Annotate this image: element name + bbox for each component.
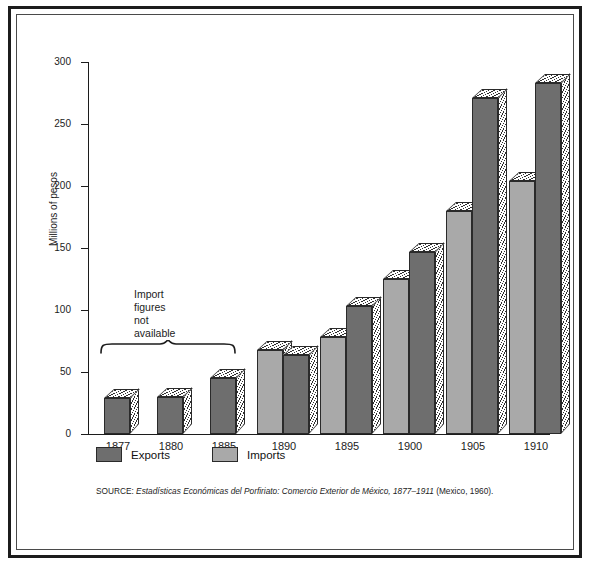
bar-imports-1910[interactable]: [509, 181, 535, 434]
bar-front-face: [283, 355, 309, 434]
y-tick-label-250: 250: [54, 119, 71, 129]
bar-group-1905: 1905: [88, 62, 550, 434]
bar-exports-1877[interactable]: [104, 398, 130, 434]
bar-front-face: [446, 211, 472, 434]
bar-exports-1910[interactable]: [535, 83, 561, 434]
annotation-line-1: Import: [134, 288, 224, 301]
bar-imports-1890[interactable]: [257, 350, 283, 434]
bar-front-face: [472, 98, 498, 434]
annotation-line-4: available: [134, 327, 224, 340]
legend-swatch-exports: [96, 447, 122, 462]
legend: Exports Imports: [96, 447, 317, 462]
bar-exports-1900[interactable]: [409, 252, 435, 434]
plot-area: 300 250 200 150 100 50 0 187718801885189…: [88, 62, 550, 435]
bar-side-face: [561, 73, 570, 434]
bar-side-face: [498, 88, 507, 434]
source-prefix: SOURCE:: [96, 486, 136, 496]
bar-imports-1905[interactable]: [446, 211, 472, 434]
bar-front-face: [257, 350, 283, 434]
y-tick-50: 50: [81, 372, 89, 373]
figure-container: Millions of pesos 300 250 200 150 100 50…: [0, 0, 590, 568]
source-note: SOURCE: Estadísticas Económicas del Porf…: [96, 486, 493, 496]
bar-front-face: [409, 252, 435, 434]
bar-front-face: [535, 83, 561, 434]
annotation-brace: [100, 340, 236, 354]
legend-swatch-imports: [212, 447, 238, 462]
bar-front-face: [346, 306, 372, 434]
bar-imports-1895[interactable]: [320, 337, 346, 434]
annotation-line-3: not: [134, 314, 224, 327]
bar-front-face: [509, 181, 535, 434]
brace-icon: [100, 340, 236, 354]
bar-side-face: [435, 242, 444, 434]
y-tick-200: 200: [81, 186, 89, 187]
bar-front-face: [320, 337, 346, 434]
bar-side-face: [372, 296, 381, 434]
y-tick-label-100: 100: [54, 305, 71, 315]
bar-exports-1890[interactable]: [283, 355, 309, 434]
y-tick-150: 150: [81, 248, 89, 249]
y-tick-label-50: 50: [60, 367, 71, 377]
bar-exports-1905[interactable]: [472, 98, 498, 434]
annotation-line-2: figures: [134, 301, 224, 314]
legend-label-imports: Imports: [247, 449, 285, 461]
bar-exports-1885[interactable]: [210, 378, 236, 434]
bar-front-face: [210, 378, 236, 434]
y-tick-label-300: 300: [54, 57, 71, 67]
bar-front-face: [104, 398, 130, 434]
bar-exports-1895[interactable]: [346, 306, 372, 434]
y-tick-0: 0: [81, 434, 89, 435]
y-tick-label-0: 0: [65, 429, 71, 439]
y-tick-100: 100: [81, 310, 89, 311]
bar-side-face: [236, 368, 245, 434]
bar-exports-1880[interactable]: [157, 397, 183, 434]
source-title: Estadísticas Económicas del Porfiriato: …: [136, 486, 434, 496]
source-suffix: (Mexico, 1960).: [434, 486, 493, 496]
y-tick-300: 300: [81, 62, 89, 63]
y-tick-250: 250: [81, 124, 89, 125]
bar-front-face: [157, 397, 183, 434]
bar-imports-1900[interactable]: [383, 279, 409, 434]
legend-item-imports[interactable]: Imports: [212, 447, 285, 462]
import-unavailable-annotation: Import figures not available: [134, 288, 224, 340]
bar-side-face: [309, 345, 318, 434]
legend-label-exports: Exports: [131, 449, 170, 461]
y-tick-label-150: 150: [54, 243, 71, 253]
x-axis-line: [88, 434, 550, 435]
legend-item-exports[interactable]: Exports: [96, 447, 170, 462]
bar-front-face: [383, 279, 409, 434]
y-tick-label-200: 200: [54, 181, 71, 191]
